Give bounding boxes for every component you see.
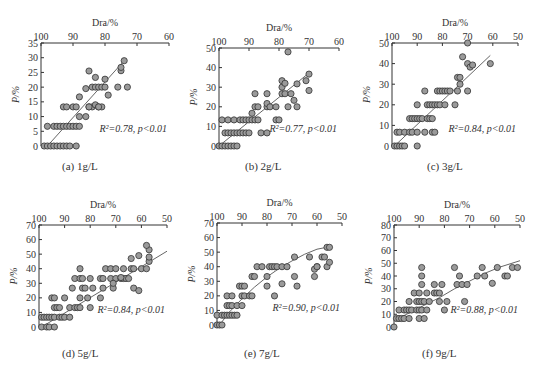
y-tick-label: 0 — [33, 141, 38, 152]
y-axis-label: P/% — [10, 86, 21, 104]
y-axis-label: P/% — [363, 267, 374, 285]
data-point — [241, 283, 247, 289]
data-point — [422, 88, 428, 94]
data-point — [225, 117, 231, 123]
data-point — [291, 97, 297, 103]
panel-d: 1009080706050010203040506070Dra/%P/%R²=0… — [0, 185, 187, 346]
data-point — [426, 298, 432, 304]
r-squared-annotation: R²=0.88, p<0.01 — [449, 304, 518, 315]
scatter-plot: 1009080706001020304050Dra/%P/%R²=0.77, p… — [179, 8, 359, 161]
data-point — [285, 49, 291, 55]
y-tick-label: 40 — [206, 62, 216, 73]
data-point — [85, 295, 91, 301]
y-tick-label: 20 — [204, 290, 214, 301]
data-point — [234, 312, 240, 318]
data-point — [128, 255, 134, 261]
data-point — [97, 295, 103, 301]
data-point — [77, 295, 83, 301]
data-point — [105, 92, 111, 98]
data-point — [439, 281, 445, 287]
data-point — [264, 273, 270, 279]
data-point — [255, 117, 261, 123]
data-point — [326, 244, 332, 250]
y-tick-label: 50 — [204, 247, 214, 258]
data-point — [474, 273, 480, 279]
data-point — [291, 273, 297, 279]
data-point — [64, 104, 70, 110]
data-point — [414, 143, 420, 149]
x-tick-label: 80 — [437, 31, 447, 42]
data-point — [100, 285, 106, 291]
x-tick-label: 90 — [244, 36, 254, 47]
y-tick-label: 30 — [26, 278, 36, 289]
data-point — [406, 315, 412, 321]
data-point — [487, 61, 493, 67]
caption-c: (c) 3g/L — [427, 160, 463, 172]
data-point — [73, 143, 79, 149]
data-point — [219, 117, 225, 123]
data-point — [258, 130, 264, 136]
caption-f: (f) 9g/L — [422, 347, 457, 359]
data-point — [457, 81, 463, 87]
data-point — [124, 84, 130, 90]
data-point — [303, 78, 309, 84]
data-point — [131, 266, 137, 272]
y-tick-label: 40 — [204, 261, 214, 272]
y-tick-label: 10 — [26, 307, 36, 318]
data-point — [73, 104, 79, 110]
y-axis-label: P/% — [188, 88, 199, 106]
data-point — [79, 275, 85, 281]
data-point — [306, 71, 312, 77]
panel-e: 1009080706050010203040506070Dra/%P/%R²=0… — [177, 183, 362, 344]
y-tick-label: 70 — [204, 218, 214, 229]
y-tick-label: 20 — [381, 296, 391, 307]
y-tick-label: 30 — [28, 52, 38, 63]
data-point — [504, 273, 510, 279]
data-point — [96, 104, 102, 110]
data-point — [436, 298, 442, 304]
x-tick-label: 90 — [237, 211, 247, 222]
data-point — [416, 290, 422, 296]
caption-e: (e) 7g/L — [244, 347, 280, 359]
y-tick-label: 80 — [381, 220, 391, 231]
data-point — [479, 264, 485, 270]
y-tick-label: 60 — [204, 232, 214, 243]
x-tick-label: 70 — [304, 36, 314, 47]
data-point — [83, 114, 89, 120]
data-point — [252, 91, 258, 97]
data-point — [92, 74, 98, 80]
y-tick-label: 10 — [204, 305, 214, 316]
y-tick-label: 0 — [31, 322, 36, 333]
data-point — [422, 129, 428, 135]
data-point — [264, 283, 270, 289]
panel-a: 1009080706005101520253035Dra/%P/%R²=0.78… — [1, 3, 189, 165]
scatter-plot: 100908070605001020304050Dra/%P/%R²=0.84,… — [352, 3, 537, 161]
data-point — [464, 281, 470, 287]
data-point — [83, 86, 89, 92]
x-axis-label: Dra/% — [92, 17, 118, 28]
data-point — [120, 266, 126, 272]
data-point — [102, 84, 108, 90]
data-point — [406, 298, 412, 304]
data-point — [143, 242, 149, 248]
data-point — [273, 104, 279, 110]
data-point — [56, 305, 62, 311]
data-point — [143, 266, 149, 272]
caption-a: (a) 1g/L — [62, 160, 98, 172]
x-tick-label: 60 — [490, 213, 500, 224]
data-point — [90, 285, 96, 291]
x-axis-label: Dra/% — [266, 197, 292, 208]
x-tick-label: 60 — [136, 213, 146, 224]
data-point — [424, 290, 430, 296]
data-point — [249, 110, 255, 116]
data-point — [76, 123, 82, 129]
data-point — [447, 88, 453, 94]
data-point — [113, 266, 119, 272]
data-point — [229, 293, 235, 299]
y-tick-label: 50 — [379, 38, 389, 49]
scatter-plot: 1009080706050010203040506070Dra/%P/%R²=0… — [0, 185, 187, 342]
data-point — [86, 104, 92, 110]
y-tick-label: 10 — [28, 111, 38, 122]
x-tick-label: 70 — [111, 213, 121, 224]
y-tick-label: 40 — [381, 271, 391, 282]
